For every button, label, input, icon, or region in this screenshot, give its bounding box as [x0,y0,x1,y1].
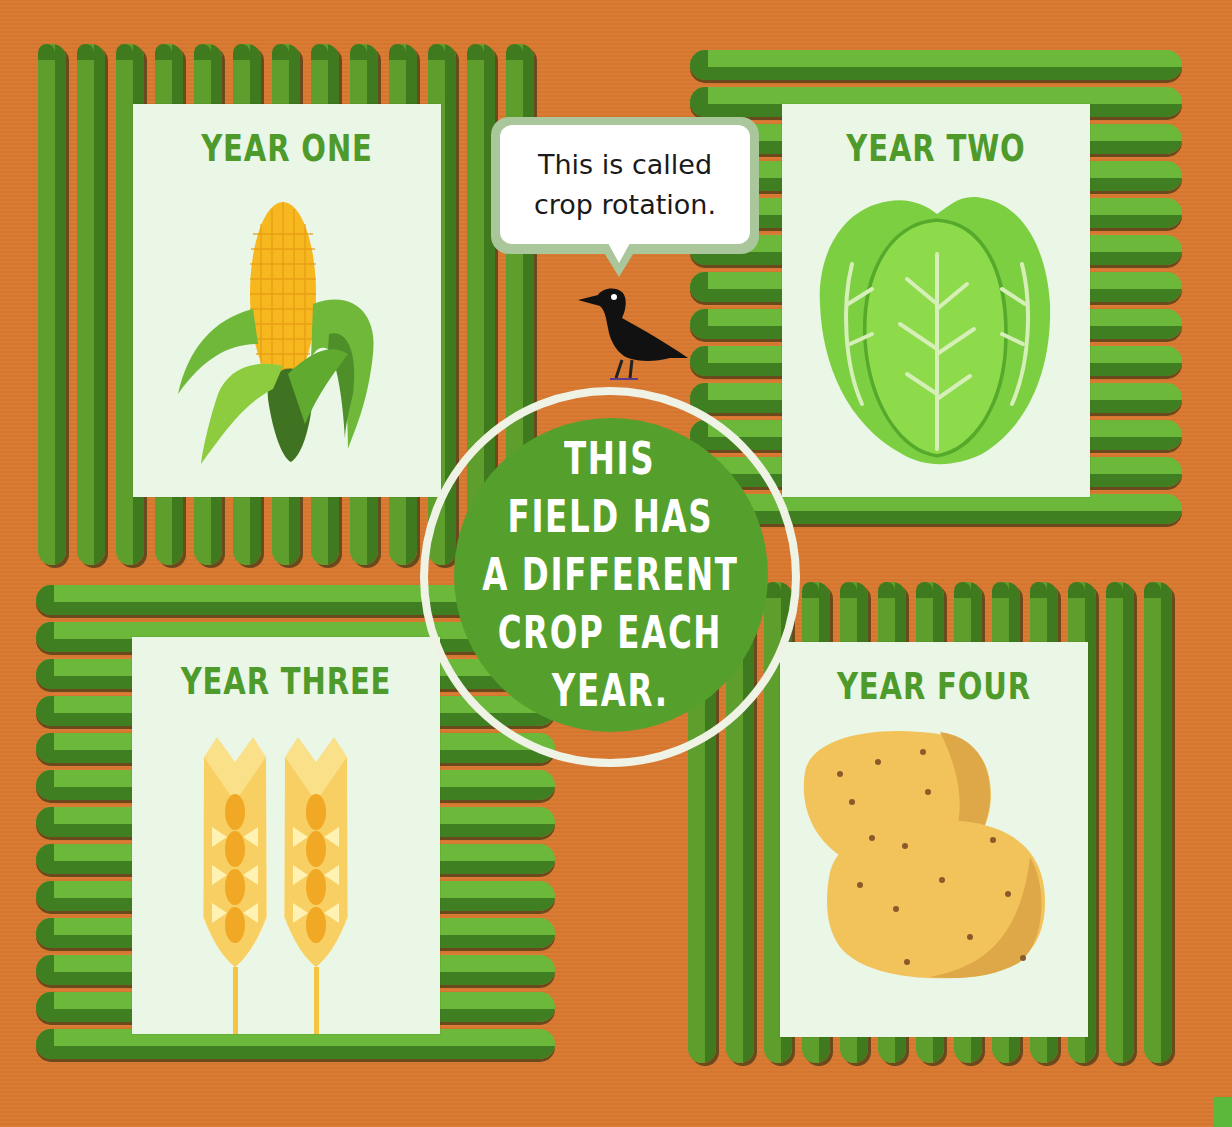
center-message: THIS FIELD HAS A DIFFERENT CROP EACH YEA… [430,420,790,730]
lettuce-icon [782,104,1090,497]
speech-bubble-body: This is called crop rotation. [500,125,750,244]
corn-icon [133,104,441,497]
speech-bubble: This is called crop rotation. [491,117,759,254]
potato-icon [780,642,1088,1037]
corner-mark [1213,1097,1232,1127]
center-message-line: A DIFFERENT [482,546,739,604]
crop-row [690,50,1182,80]
speech-bubble-line: This is called [538,145,712,185]
speech-bubble-line: crop rotation. [534,185,716,225]
crop-row [38,44,66,565]
center-message-line: YEAR. [551,662,668,720]
card-year-one: YEAR ONE [133,104,441,497]
card-year-two: YEAR TWO [782,104,1090,497]
card-year-three: YEAR THREE [132,637,440,1034]
crop-row [1106,582,1134,1063]
center-message-line: FIELD HAS [507,488,713,546]
card-year-four: YEAR FOUR [780,642,1088,1037]
center-message-line: CROP EACH [498,604,723,662]
center-message-line: THIS [564,430,655,488]
speech-bubble-tail-inner [608,243,630,263]
crop-row [77,44,105,565]
crop-row [1144,582,1172,1063]
wheat-icon [132,637,440,1034]
crow-icon [570,280,700,390]
